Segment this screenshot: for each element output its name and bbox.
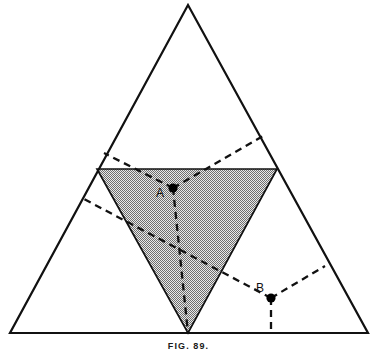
shaded-inverted-triangle xyxy=(97,169,277,333)
B-ray-upper-right xyxy=(271,266,325,298)
figure-caption: FIG. 89. xyxy=(0,341,377,351)
figure-canvas: A B xyxy=(0,0,377,352)
point-a-label: A xyxy=(156,186,164,200)
figure-container: A B FIG. 89. xyxy=(0,0,377,352)
point-A-marker xyxy=(168,183,177,192)
point-B-marker xyxy=(266,293,275,302)
point-b-label: B xyxy=(256,281,264,295)
